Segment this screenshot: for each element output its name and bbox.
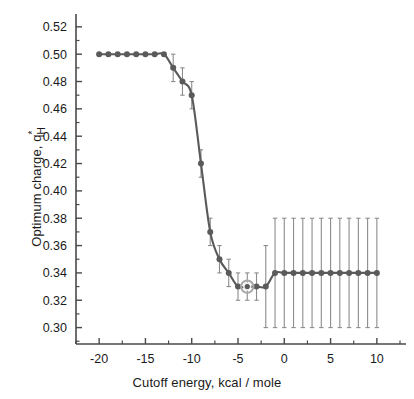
data-point-marker xyxy=(337,270,343,276)
data-point-marker xyxy=(207,229,213,235)
y-tick-label: 0.38 xyxy=(43,212,67,226)
data-point-marker xyxy=(170,65,176,71)
y-tick-label: 0.46 xyxy=(43,102,67,116)
data-point-marker xyxy=(300,270,306,276)
data-line-group xyxy=(99,53,377,287)
x-axis-label: Cutoff energy, kcal / mole xyxy=(0,375,414,390)
data-markers-group xyxy=(96,51,380,289)
data-point-marker xyxy=(179,79,185,85)
data-point-marker xyxy=(328,270,334,276)
data-line xyxy=(99,53,377,287)
data-point-marker xyxy=(291,270,297,276)
data-point-marker xyxy=(346,270,352,276)
data-point-marker xyxy=(124,51,130,57)
x-tick-label: -15 xyxy=(136,352,154,366)
axes-group xyxy=(76,14,406,344)
data-point-marker xyxy=(263,284,269,290)
chart-canvas: 0.300.320.340.360.380.400.420.440.460.48… xyxy=(0,0,414,399)
data-point-marker xyxy=(374,270,380,276)
data-point-marker xyxy=(365,270,371,276)
y-tick-label: 0.40 xyxy=(43,184,67,198)
data-point-marker xyxy=(133,51,139,57)
y-tick-label: 0.44 xyxy=(43,130,67,144)
y-tick-label: 0.32 xyxy=(43,294,67,308)
data-point-marker xyxy=(161,51,167,57)
y-tick-label: 0.50 xyxy=(43,48,67,62)
data-point-marker xyxy=(152,51,158,57)
y-tick-label: 0.34 xyxy=(43,266,67,280)
y-tick-label: 0.30 xyxy=(43,321,67,335)
data-point-marker xyxy=(105,51,111,57)
x-tick-label: 5 xyxy=(327,352,334,366)
x-tick-label: 0 xyxy=(281,352,288,366)
data-point-marker xyxy=(272,270,278,276)
data-point-marker xyxy=(226,270,232,276)
y-tick-label: 0.52 xyxy=(43,20,67,34)
y-tick-label: 0.48 xyxy=(43,75,67,89)
x-tick-label: 10 xyxy=(370,352,384,366)
data-point-marker xyxy=(318,270,324,276)
data-point-marker xyxy=(198,161,204,167)
data-point-marker xyxy=(216,256,222,262)
tick-labels-group: 0.300.320.340.360.380.400.420.440.460.48… xyxy=(43,20,384,366)
x-tick-label: -5 xyxy=(232,352,243,366)
x-tick-label: -20 xyxy=(90,352,108,366)
x-tick-label: -10 xyxy=(183,352,201,366)
data-point-marker xyxy=(142,51,148,57)
data-point-marker xyxy=(96,51,102,57)
data-point-marker xyxy=(355,270,361,276)
data-point-marker xyxy=(189,92,195,98)
error-bars-group xyxy=(171,54,379,327)
data-point-marker xyxy=(309,270,315,276)
data-point-marker xyxy=(281,270,287,276)
y-tick-label: 0.36 xyxy=(43,239,67,253)
y-tick-label: 0.42 xyxy=(43,157,67,171)
chart-figure: 0.300.320.340.360.380.400.420.440.460.48… xyxy=(0,0,414,399)
data-point-marker xyxy=(115,51,121,57)
